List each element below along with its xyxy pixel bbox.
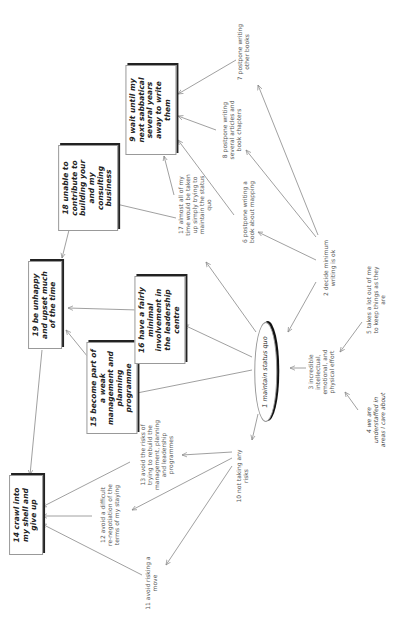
edge-17-to-9: [164, 156, 174, 195]
edge-2-to-1: [288, 282, 316, 332]
edge-8-to-9: [178, 116, 216, 130]
edge-10-to-11: [166, 466, 232, 565]
cognitive-map-diagram: 1 maintain status quo2 decide minimum wr…: [0, 0, 394, 638]
concept-node-3: 3 incredible intellectual, emotional, an…: [308, 344, 336, 400]
concept-node-15: 15 become part of a weak management and …: [86, 342, 137, 434]
concept-node-17: 17 almost all of my time would be taken …: [178, 173, 212, 237]
concept-node-14: 14 crawl into my shell and give up: [9, 475, 43, 555]
edge-1-to-15: [132, 370, 252, 394]
edge-2-to-7: [258, 85, 318, 235]
edge-4-to-3: [345, 392, 358, 410]
edge-19-to-14: [30, 350, 42, 475]
edge-1-to-10: [252, 414, 258, 440]
edge-1-to-17: [206, 262, 256, 332]
concept-node-11: 11 avoid risking a move: [145, 555, 159, 611]
edge-5-to-3: [340, 322, 362, 352]
concept-node-4: 4 we are understaffed in areas I care ab…: [366, 390, 387, 450]
concept-node-13: 13 avoid the risks of trying to rebuild …: [140, 419, 174, 491]
edge-2-to-6: [258, 232, 316, 260]
edge-16-to-19: [68, 308, 138, 310]
concept-node-6: 6 postpone writing a book about mapping: [242, 177, 256, 247]
concept-node-19: 19 be unhappy and upset much of the time: [28, 261, 62, 349]
concept-node-2: 2 decide minimum writing is ok: [323, 237, 337, 299]
edge-2-to-8: [246, 150, 316, 237]
concept-node-8: 8 postpone writing several articles and …: [222, 98, 243, 162]
edge-11-to-14: [42, 524, 142, 575]
edge-10-to-13: [182, 452, 232, 455]
concept-node-10: 10 not taking any risks: [236, 448, 250, 504]
concept-node-7: 7 postpone writing other books: [237, 21, 251, 83]
concept-node-12: 12 avoid a difficult re-negotiation of t…: [100, 484, 121, 546]
concept-node-9: 9 wait until my next sabbatical several …: [125, 65, 176, 155]
edge-1-to-16: [184, 325, 252, 357]
concept-node-18: 18 unable to contribute to building your…: [58, 145, 118, 231]
concept-node-16: 16 have a fairly minimal involvement in …: [134, 276, 185, 364]
concept-node-5: 5 takes a lot out of me to keep things a…: [366, 265, 387, 335]
edge-17-to-18: [112, 203, 176, 218]
edge-7-to-9: [178, 60, 236, 94]
